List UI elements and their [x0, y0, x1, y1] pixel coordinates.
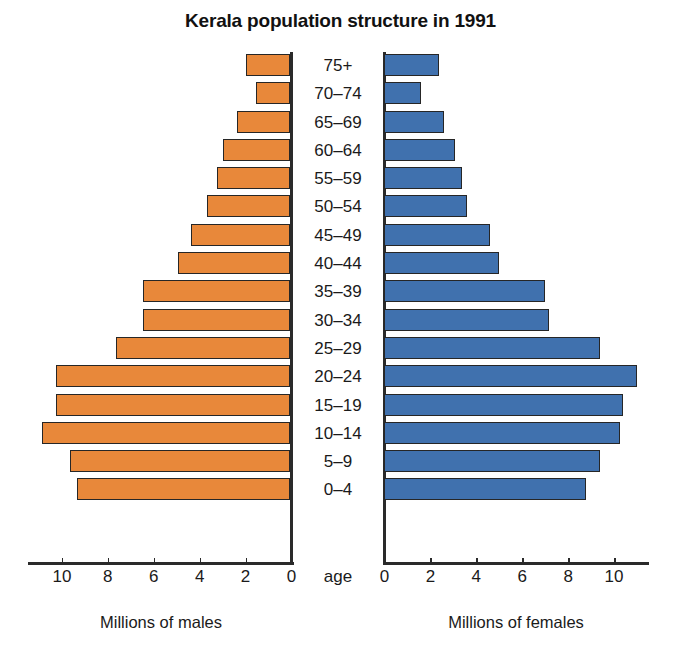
pyramid-row: 50–54 [0, 193, 681, 221]
pyramid-row: 15–19 [0, 392, 681, 420]
female-axis-tick [430, 558, 432, 564]
female-bar[interactable] [384, 82, 421, 104]
female-axis-tick-label: 10 [594, 567, 634, 587]
age-group-label: 50–54 [293, 193, 383, 221]
female-bar[interactable] [384, 337, 600, 359]
male-bar[interactable] [42, 422, 290, 444]
age-group-label: 40–44 [293, 250, 383, 278]
pyramid-row: 60–64 [0, 137, 681, 165]
plot-area: 75+70–7465–6960–6455–5950–5445–4940–4435… [0, 52, 681, 562]
male-bar[interactable] [223, 139, 290, 161]
age-group-label: 20–24 [293, 363, 383, 391]
female-axis-tick-label: 8 [548, 567, 588, 587]
pyramid-row: 70–74 [0, 80, 681, 108]
male-bar[interactable] [256, 82, 290, 104]
male-bar[interactable] [143, 309, 290, 331]
female-bar[interactable] [384, 309, 549, 331]
age-group-label: 60–64 [293, 137, 383, 165]
female-bar[interactable] [384, 252, 499, 274]
male-axis-tick [62, 558, 64, 564]
male-bar[interactable] [246, 54, 290, 76]
female-bar[interactable] [384, 280, 545, 302]
female-bar[interactable] [384, 224, 490, 246]
male-bar[interactable] [178, 252, 290, 274]
male-bar[interactable] [207, 195, 290, 217]
female-bar[interactable] [384, 195, 467, 217]
pyramid-row: 35–39 [0, 278, 681, 306]
female-axis-tick-label: 2 [410, 567, 450, 587]
age-group-label: 65–69 [293, 109, 383, 137]
age-group-label: 25–29 [293, 335, 383, 363]
age-group-label: 30–34 [293, 307, 383, 335]
female-axis-tick [614, 558, 616, 564]
age-group-label: 70–74 [293, 80, 383, 108]
male-bar[interactable] [77, 478, 290, 500]
male-bar[interactable] [56, 394, 290, 416]
male-bar[interactable] [237, 111, 290, 133]
population-pyramid-chart: Kerala population structure in 1991 75+7… [0, 0, 681, 653]
male-bar[interactable] [56, 365, 290, 387]
chart-title: Kerala population structure in 1991 [0, 10, 681, 32]
pyramid-row: 0–4 [0, 476, 681, 504]
pyramid-row: 55–59 [0, 165, 681, 193]
female-axis-tick [476, 558, 478, 564]
age-group-label: 35–39 [293, 278, 383, 306]
age-axis-label: age [293, 567, 383, 587]
age-group-label: 75+ [293, 52, 383, 80]
pyramid-row: 25–29 [0, 335, 681, 363]
male-axis-tick-label: 6 [134, 567, 174, 587]
female-bar[interactable] [384, 422, 620, 444]
male-bar[interactable] [70, 450, 290, 472]
male-axis-caption: Millions of males [28, 613, 294, 632]
pyramid-row: 20–24 [0, 363, 681, 391]
pyramid-row: 10–14 [0, 420, 681, 448]
male-axis-tick [292, 558, 294, 564]
pyramid-row: 5–9 [0, 448, 681, 476]
female-axis-caption: Millions of females [383, 613, 649, 632]
female-bar[interactable] [384, 394, 623, 416]
male-axis-tick-label: 2 [226, 567, 266, 587]
male-axis-tick-label: 8 [88, 567, 128, 587]
female-axis-tick [385, 558, 387, 564]
male-axis-tick [246, 558, 248, 564]
female-bar[interactable] [384, 167, 462, 189]
pyramid-row: 45–49 [0, 222, 681, 250]
pyramid-row: 30–34 [0, 307, 681, 335]
male-axis-tick [200, 558, 202, 564]
age-group-label: 0–4 [293, 476, 383, 504]
female-bar[interactable] [384, 478, 586, 500]
female-axis-line [383, 562, 649, 565]
male-axis-tick-label: 10 [42, 567, 82, 587]
male-bar[interactable] [116, 337, 290, 359]
pyramid-row: 40–44 [0, 250, 681, 278]
age-group-label: 5–9 [293, 448, 383, 476]
female-axis-tick-label: 4 [456, 567, 496, 587]
male-bar[interactable] [143, 280, 290, 302]
female-bar[interactable] [384, 139, 455, 161]
female-bar[interactable] [384, 450, 600, 472]
male-axis-line [28, 562, 294, 565]
pyramid-row: 75+ [0, 52, 681, 80]
male-bar[interactable] [217, 167, 290, 189]
age-group-label: 10–14 [293, 420, 383, 448]
age-group-label: 15–19 [293, 392, 383, 420]
female-bar[interactable] [384, 111, 444, 133]
male-bar[interactable] [191, 224, 290, 246]
female-bar[interactable] [384, 365, 637, 387]
pyramid-rows: 75+70–7465–6960–6455–5950–5445–4940–4435… [0, 52, 681, 505]
female-bar[interactable] [384, 54, 439, 76]
male-axis-tick-label: 4 [180, 567, 220, 587]
female-axis-tick [568, 558, 570, 564]
pyramid-row: 65–69 [0, 109, 681, 137]
female-axis-tick [522, 558, 524, 564]
male-axis-tick [108, 558, 110, 564]
age-group-label: 55–59 [293, 165, 383, 193]
female-axis-tick-label: 6 [502, 567, 542, 587]
age-group-label: 45–49 [293, 222, 383, 250]
male-axis-tick [154, 558, 156, 564]
